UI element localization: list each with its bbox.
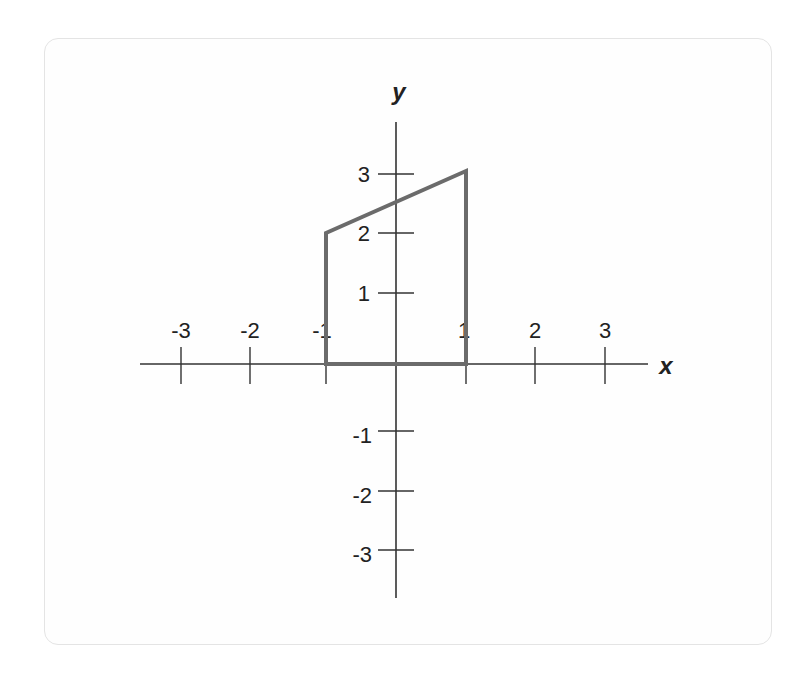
x-tick-label: 3 [599, 318, 611, 343]
x-tick-label: -2 [240, 318, 260, 343]
x-tick-label: -3 [171, 318, 191, 343]
y-tick-label: -2 [352, 483, 372, 508]
x-tick-label: -1 [312, 318, 332, 343]
y-axis-label: y [391, 78, 407, 105]
x-tick-labels: -3 -2 -1 1 2 3 [171, 318, 611, 343]
y-tick-label: -3 [352, 542, 372, 567]
x-tick-label: 2 [529, 318, 541, 343]
y-tick-label: 1 [358, 281, 370, 306]
coordinate-plane: -3 -2 -1 1 2 3 3 2 1 -1 -2 -3 x y [0, 0, 806, 677]
y-tick-label: 2 [358, 221, 370, 246]
y-tick-label: -1 [352, 423, 372, 448]
x-axis-label: x [657, 352, 674, 379]
y-tick-label: 3 [358, 162, 370, 187]
